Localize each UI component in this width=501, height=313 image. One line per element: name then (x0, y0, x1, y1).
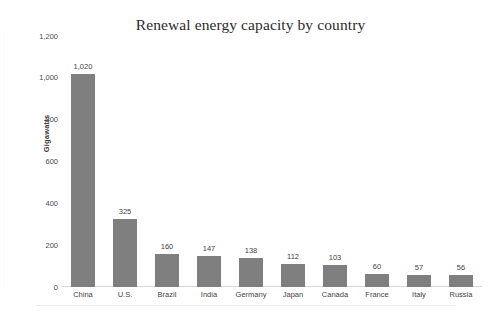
bar-germany[interactable] (239, 258, 263, 287)
bar-russia[interactable] (449, 275, 473, 287)
bar-italy[interactable] (407, 275, 431, 287)
bar-value-label: 160 (146, 242, 188, 251)
bar-value-label: 147 (188, 244, 230, 253)
bottom-rule (36, 305, 456, 306)
bar-value-label: 138 (230, 246, 272, 255)
y-axis-tick-labels: 02004006008001,0001,200 (22, 31, 58, 293)
bar-japan[interactable] (281, 264, 305, 287)
y-axis-tick-label: 800 (22, 115, 58, 124)
bar-slot: 147 (188, 36, 230, 287)
bar-slot: 56 (440, 36, 482, 287)
bar-chart: Renewal energy capacity by country Gigaw… (0, 0, 501, 313)
y-axis-tick-label: 400 (22, 199, 58, 208)
y-axis-tick-label: 0 (22, 283, 58, 292)
bar-france[interactable] (365, 274, 389, 287)
left-rule (3, 30, 4, 292)
x-axis-tick-labels: ChinaU.S.BrazilIndiaGermanyJapanCanadaFr… (62, 290, 482, 304)
bar-india[interactable] (197, 256, 221, 287)
bar-value-label: 60 (356, 262, 398, 271)
y-axis-tick-label: 200 (22, 241, 58, 250)
plot-area: 1,020325160147138112103605756 (62, 36, 482, 287)
bar-u-s[interactable] (113, 219, 137, 287)
bar-value-label: 1,020 (62, 62, 104, 71)
bar-slot: 60 (356, 36, 398, 287)
bar-value-label: 56 (440, 263, 482, 272)
bar-value-label: 325 (104, 207, 146, 216)
bar-brazil[interactable] (155, 254, 179, 287)
bar-slot: 57 (398, 36, 440, 287)
bar-slot: 138 (230, 36, 272, 287)
bar-slot: 160 (146, 36, 188, 287)
chart-title: Renewal energy capacity by country (0, 16, 501, 34)
bar-value-label: 112 (272, 252, 314, 261)
bar-slot: 325 (104, 36, 146, 287)
bar-slot: 1,020 (62, 36, 104, 287)
x-axis-tick-label: Russia (434, 290, 488, 300)
bar-slot: 103 (314, 36, 356, 287)
bar-value-label: 103 (314, 253, 356, 262)
y-axis-tick-label: 1,200 (22, 32, 58, 41)
bar-value-label: 57 (398, 263, 440, 272)
y-axis-tick-label: 1,000 (22, 73, 58, 82)
bar-slot: 112 (272, 36, 314, 287)
bar-canada[interactable] (323, 265, 347, 287)
bar-china[interactable] (71, 74, 95, 287)
y-axis-tick-label: 600 (22, 157, 58, 166)
